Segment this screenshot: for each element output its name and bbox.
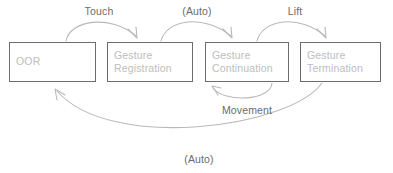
state-label-gesture-termination: Gesture Termination: [307, 49, 363, 76]
state-label-gesture-registration: Gesture Registration: [114, 49, 172, 76]
edge-label-movement: Movement: [222, 104, 272, 116]
edge-continuation-to-termination: [257, 22, 326, 41]
edge-label-auto-return: (Auto): [184, 153, 214, 165]
state-box-gesture-continuation[interactable]: Gesture Continuation: [205, 42, 289, 82]
state-diagram: OOR Gesture Registration Gesture Continu…: [0, 0, 393, 173]
edge-registration-to-continuation: [161, 22, 232, 41]
edge-oor-to-registration: [66, 22, 137, 41]
edge-path-lift: [257, 22, 325, 41]
edge-path-auto-forward: [161, 22, 231, 41]
diagram-edges-layer: [0, 0, 393, 173]
arrowhead-auto-forward: [223, 27, 232, 38]
state-label-oor: OOR: [16, 55, 40, 69]
edge-continuation-self-loop: [212, 83, 272, 98]
edge-label-touch: Touch: [85, 5, 114, 17]
edge-termination-to-oor: [55, 83, 322, 128]
state-box-oor[interactable]: OOR: [9, 42, 96, 82]
edge-label-auto-forward: (Auto): [182, 5, 212, 17]
state-box-gesture-termination[interactable]: Gesture Termination: [300, 42, 381, 82]
edge-label-lift: Lift: [288, 5, 303, 17]
state-box-gesture-registration[interactable]: Gesture Registration: [107, 42, 193, 82]
state-label-gesture-continuation: Gesture Continuation: [212, 49, 273, 76]
edge-path-auto-return: [57, 83, 322, 128]
edge-path-touch: [66, 22, 136, 41]
edge-path-movement: [213, 83, 272, 98]
arrowhead-touch: [128, 27, 137, 38]
